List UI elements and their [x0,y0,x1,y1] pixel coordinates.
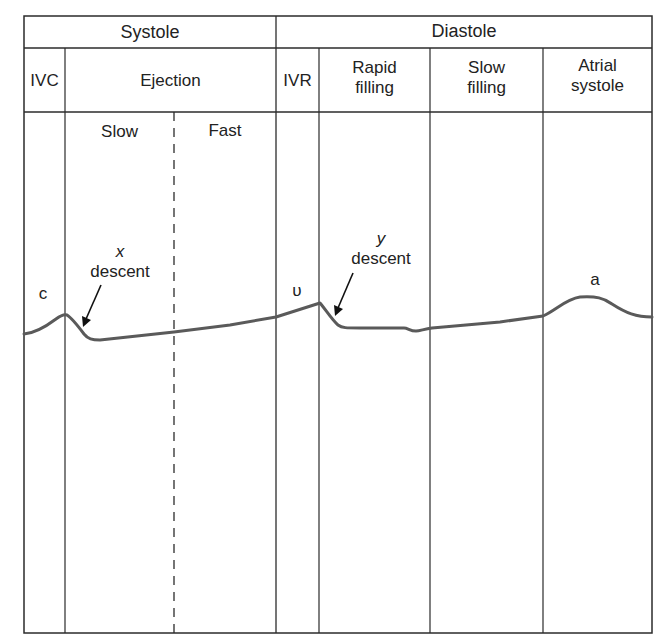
x-descent-arrow [86,285,101,319]
x-descent-label: x descent [80,242,160,282]
y-descent-label: y descent [341,229,421,269]
y-descent-arrow [338,273,353,308]
phase-rapid-filling: Rapid filling [319,58,430,98]
jvp-waveform [24,297,652,340]
phase-atrial-systole-line1: Atrial [543,56,652,76]
phase-slow-filling-line2: filling [430,78,543,98]
x-descent-letter: x [80,242,160,262]
wave-v-label: υ [282,281,312,301]
phase-atrial-systole: Atrial systole [543,56,652,96]
ejection-slow-label: Slow [65,122,174,142]
phase-slow-filling-line1: Slow [430,58,543,78]
ejection-fast-label: Fast [174,121,276,141]
systole-header: Systole [24,22,276,42]
phase-slow-filling: Slow filling [430,58,543,98]
diastole-header: Diastole [276,21,652,41]
phase-ivc: IVC [24,71,65,91]
wave-a-label: a [580,270,610,290]
wave-c-label: c [28,284,58,304]
phase-rapid-filling-line1: Rapid [319,58,430,78]
jugular-venous-pulse-diagram: Systole Diastole IVC Ejection IVR Rapid … [0,0,666,643]
phase-rapid-filling-line2: filling [319,78,430,98]
phase-ivr: IVR [276,71,319,91]
phase-atrial-systole-line2: systole [543,76,652,96]
y-descent-letter: y [341,229,421,249]
x-descent-word: descent [80,262,160,282]
y-descent-word: descent [341,249,421,269]
phase-ejection: Ejection [65,71,276,91]
